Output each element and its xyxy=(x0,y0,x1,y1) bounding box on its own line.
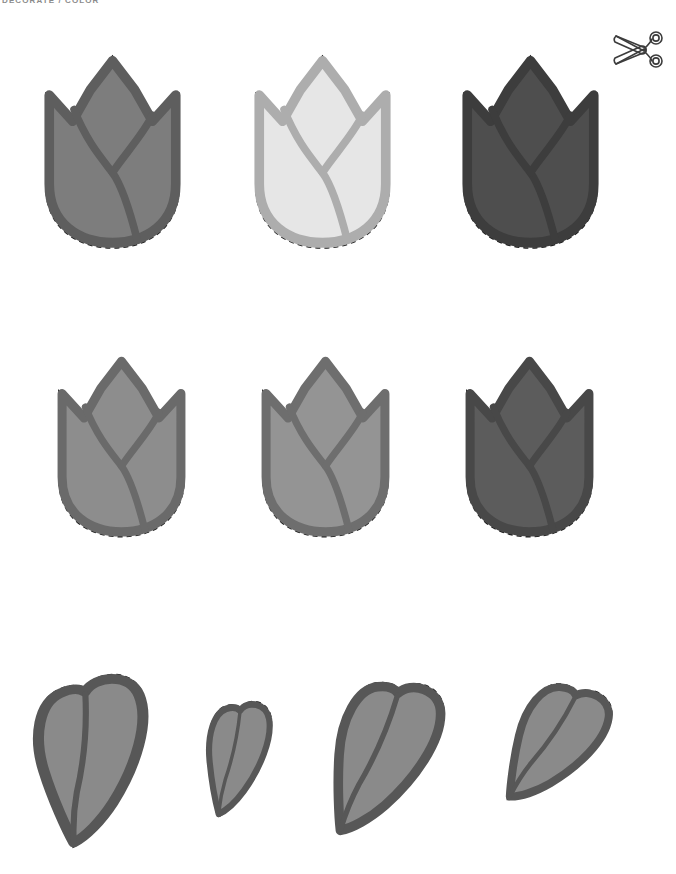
tulip-cutout xyxy=(248,340,403,548)
leaf-cutout xyxy=(477,657,632,833)
leaf-cutout xyxy=(301,657,464,860)
leaf-body xyxy=(495,674,615,820)
tulip-body xyxy=(467,61,594,243)
leaf-cutout xyxy=(6,659,178,860)
leaf-cutout xyxy=(194,693,280,824)
page-header-label: DECORATE / COLOR xyxy=(2,0,99,5)
tulip-body xyxy=(259,61,386,243)
tulip-cutout xyxy=(44,340,199,548)
tulip-cutout xyxy=(452,340,607,548)
tulip-body xyxy=(49,61,176,243)
tulip-body xyxy=(266,361,385,531)
tulip-cutout xyxy=(30,38,195,260)
tulip-body xyxy=(62,361,181,531)
tulip-body xyxy=(470,361,589,531)
scissors-icon xyxy=(612,26,668,74)
tulip-cutout xyxy=(448,38,613,260)
tulip-cutout xyxy=(240,38,405,260)
template-page: DECORATE / COLOR xyxy=(0,0,676,874)
leaf-body xyxy=(31,675,160,846)
